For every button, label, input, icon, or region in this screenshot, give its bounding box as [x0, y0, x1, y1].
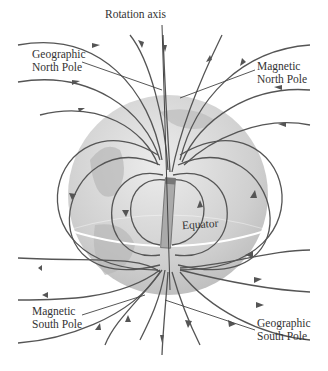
mag-north-line2: North Pole — [257, 73, 307, 86]
geo-south-line2: South Pole — [257, 330, 311, 343]
geo-north-line2: North Pole — [32, 61, 86, 74]
geographic-south-pole-label: Geographic South Pole — [257, 317, 311, 343]
geo-south-line1: Geographic — [257, 317, 311, 330]
magnetic-south-pole-label: Magnetic South Pole — [32, 305, 82, 331]
equator-label: Equator — [182, 217, 219, 233]
leader-mag-south — [82, 295, 145, 315]
leader-geo-south — [165, 300, 255, 330]
mag-north-line1: Magnetic — [257, 60, 307, 73]
leader-mag-north — [180, 70, 255, 98]
earth-magnetic-field-diagram: Rotation axis Geographic North Pole Magn… — [0, 0, 328, 371]
mag-south-line2: South Pole — [32, 318, 82, 331]
mag-south-line1: Magnetic — [32, 305, 82, 318]
rotation-axis-label: Rotation axis — [105, 8, 166, 21]
geo-north-line1: Geographic — [32, 48, 86, 61]
magnetic-north-pole-label: Magnetic North Pole — [257, 60, 307, 86]
geographic-north-pole-label: Geographic North Pole — [32, 48, 86, 74]
